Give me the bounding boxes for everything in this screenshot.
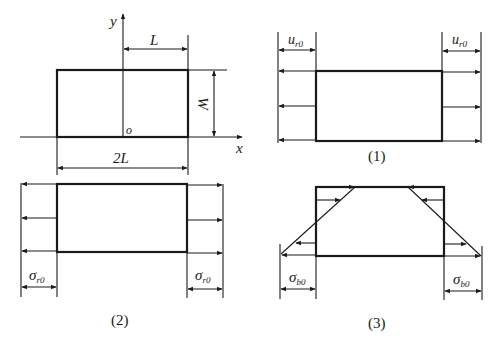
subscript: r0	[36, 275, 44, 285]
plate-rectangle	[316, 71, 442, 141]
symbol: u	[288, 32, 295, 47]
diagram-svg	[0, 0, 493, 348]
stress-distribution-left	[281, 187, 355, 254]
width-label: W	[195, 97, 210, 110]
panel-2-caption: (2)	[111, 313, 129, 328]
plate-rectangle	[57, 184, 187, 252]
origin-label: o	[126, 124, 132, 136]
full-length-label: 2L	[113, 151, 129, 166]
stress-label-left: σr0	[29, 268, 44, 285]
subscript: r0	[202, 275, 210, 285]
panel-2-uniform-stress	[21, 183, 223, 298]
subscript: r0	[459, 39, 467, 49]
panel-3-bending-stress	[280, 187, 482, 300]
panel-1-caption: (1)	[368, 149, 386, 164]
bending-label-left: σb0	[289, 270, 305, 287]
stress-label-right: σr0	[195, 268, 210, 285]
subscript: r0	[295, 39, 303, 49]
plate-rectangle	[316, 187, 444, 256]
displacement-label-left: ur0	[288, 33, 303, 49]
figure-canvas: y x o L 2L W ur0 ur0 (1) σr0 σr0 (2) σb0…	[0, 0, 493, 348]
panel-1-displacement	[278, 32, 481, 143]
displacement-label-right: ur0	[452, 33, 467, 49]
subscript: b0	[296, 277, 305, 287]
bending-label-right: σb0	[453, 272, 469, 289]
x-axis-label: x	[236, 141, 243, 156]
half-length-label: L	[150, 33, 158, 48]
symbol: u	[452, 32, 459, 47]
panel-3-caption: (3)	[368, 316, 386, 331]
subscript: b0	[460, 279, 469, 289]
panel-geometry	[20, 14, 242, 175]
y-axis-label: y	[110, 14, 117, 29]
